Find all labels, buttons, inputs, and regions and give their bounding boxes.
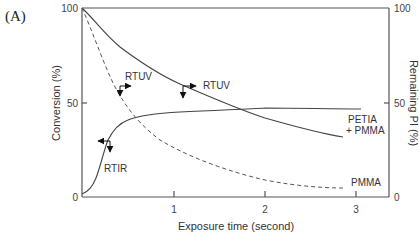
y2-tick-50: 50 xyxy=(394,98,406,109)
x-tick-3: 3 xyxy=(353,204,359,215)
y-axis-label: Conversion (%) xyxy=(50,65,62,141)
x-tick-1: 1 xyxy=(171,204,177,215)
axes xyxy=(82,8,389,197)
x-tick-2: 2 xyxy=(262,204,268,215)
y2-axis-label: Remaining PI (%) xyxy=(408,60,419,146)
y2-tick-100: 100 xyxy=(394,3,411,14)
x-axis-label: Exposure time (second) xyxy=(178,220,294,232)
annotation-petia: PETIA xyxy=(348,114,377,125)
y-tick-100: 100 xyxy=(61,3,78,14)
y-tick-50: 50 xyxy=(67,98,79,109)
arrow-rtuv-1 xyxy=(120,86,131,96)
y2-tick-0: 0 xyxy=(394,192,400,203)
annotation-rtir: RTIR xyxy=(104,163,127,174)
panel-label: (A) xyxy=(5,8,26,25)
annotation-rtuv-2: RTUV xyxy=(203,80,230,91)
annotation-pmma: PMMA xyxy=(351,177,381,188)
series-conversion-rtir xyxy=(82,108,361,194)
annotation-plus-pmma: + PMMA xyxy=(346,125,385,136)
annotation-rtuv-1: RTUV xyxy=(125,71,152,82)
chart: (A) 100 50 0 100 50 0 1 2 3 Exposure tim… xyxy=(0,0,419,234)
series-remaining-pi-petia-pmma xyxy=(82,8,343,137)
y-tick-0: 0 xyxy=(72,192,78,203)
